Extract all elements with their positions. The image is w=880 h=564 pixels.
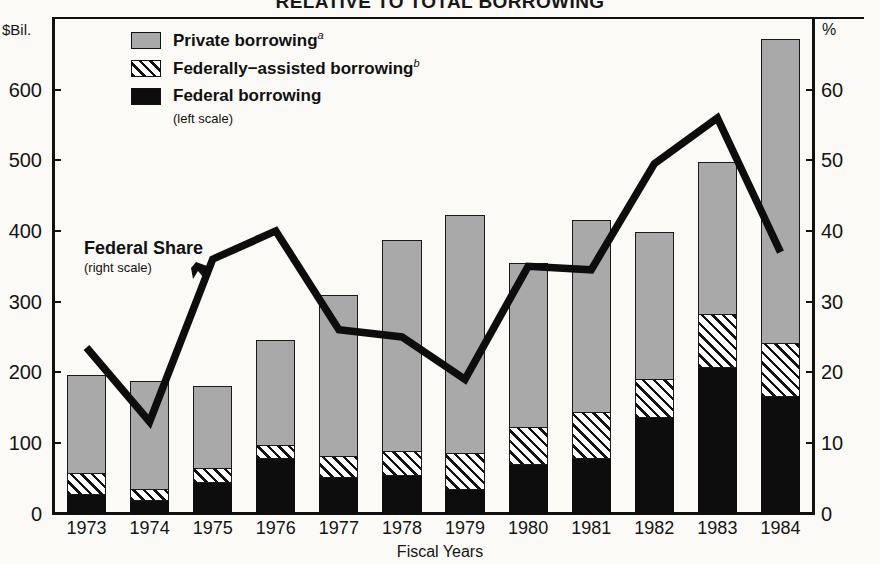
bar-segment-federally-assisted-1983 bbox=[698, 314, 737, 367]
left-tick-label-500: 500 bbox=[0, 150, 42, 170]
annotation-scale-note: (right scale) bbox=[84, 260, 203, 275]
x-axis-label-1984: 1984 bbox=[748, 519, 812, 537]
bar-segment-federally-assisted-1975 bbox=[193, 468, 232, 482]
bar-segment-private-1981 bbox=[572, 220, 611, 412]
legend-label-private: Private borrowinga bbox=[173, 29, 324, 51]
right-tick-20 bbox=[806, 371, 815, 373]
bar-segment-federal-1980 bbox=[509, 464, 548, 514]
x-axis-label-1973: 1973 bbox=[55, 519, 119, 537]
right-tick-label-60: 60 bbox=[821, 80, 880, 100]
legend-label-federal: Federal borrowing bbox=[173, 86, 321, 106]
legend-swatch-federal-icon bbox=[131, 88, 161, 105]
x-axis-label-1980: 1980 bbox=[496, 519, 560, 537]
bar-segment-federal-1974 bbox=[130, 500, 169, 514]
annotation-label: Federal Share bbox=[84, 238, 203, 259]
x-axis-label-1977: 1977 bbox=[307, 519, 371, 537]
right-tick-40 bbox=[806, 230, 815, 232]
right-tick-50 bbox=[806, 159, 815, 161]
x-axis-label-1978: 1978 bbox=[370, 519, 434, 537]
right-tick-10 bbox=[806, 442, 815, 444]
left-axis-unit: $Bil. bbox=[2, 21, 31, 38]
left-tick-label-300: 300 bbox=[0, 292, 42, 312]
legend-swatch-federally-assisted-icon bbox=[131, 60, 161, 77]
bar-segment-federal-1975 bbox=[193, 482, 232, 515]
left-tick-label-400: 400 bbox=[0, 221, 42, 241]
x-axis-label-1981: 1981 bbox=[559, 519, 623, 537]
left-tick-400 bbox=[52, 230, 61, 232]
bar-segment-private-1982 bbox=[635, 232, 674, 380]
left-tick-200 bbox=[52, 371, 61, 373]
legend-item-private: Private borrowinga bbox=[131, 28, 420, 52]
bar-segment-federal-1979 bbox=[445, 489, 484, 515]
right-tick-label-40: 40 bbox=[821, 221, 880, 241]
bar-segment-federal-1976 bbox=[256, 458, 295, 515]
x-axis-title: Fiscal Years bbox=[0, 543, 880, 561]
bar-segment-private-1974 bbox=[130, 381, 169, 489]
legend-item-federally-assisted: Federally−assisted borrowingb bbox=[131, 56, 420, 80]
right-tick-60 bbox=[806, 89, 815, 91]
right-tick-label-50: 50 bbox=[821, 150, 880, 170]
left-tick-label-100: 100 bbox=[0, 433, 42, 453]
right-tick-label-0: 0 bbox=[821, 504, 880, 524]
federal-share-annotation: Federal Share (right scale) bbox=[84, 238, 203, 275]
x-axis-label-1979: 1979 bbox=[433, 519, 497, 537]
page-title: RELATIVE TO TOTAL BORROWING bbox=[0, 0, 880, 9]
chart-legend: Private borrowinga Federally−assisted bo… bbox=[131, 28, 420, 126]
bar-segment-private-1975 bbox=[193, 386, 232, 469]
bar-segment-federal-1981 bbox=[572, 458, 611, 514]
bar-segment-private-1980 bbox=[509, 263, 548, 428]
legend-scale-note: (left scale) bbox=[173, 111, 420, 126]
bar-segment-federally-assisted-1981 bbox=[572, 412, 611, 460]
left-tick-label-200: 200 bbox=[0, 362, 42, 382]
x-axis-label-1974: 1974 bbox=[118, 519, 182, 537]
bar-segment-federally-assisted-1979 bbox=[445, 453, 484, 490]
right-axis-unit: % bbox=[822, 21, 836, 39]
left-tick-label-600: 600 bbox=[0, 80, 42, 100]
bar-segment-federally-assisted-1976 bbox=[256, 445, 295, 459]
bar-segment-federal-1978 bbox=[382, 475, 421, 515]
bar-segment-private-1973 bbox=[67, 375, 106, 474]
bar-segment-private-1978 bbox=[382, 240, 421, 452]
bar-segment-private-1984 bbox=[761, 39, 800, 344]
left-axis-line bbox=[52, 19, 55, 515]
bar-segment-federally-assisted-1982 bbox=[635, 379, 674, 419]
bar-segment-federal-1977 bbox=[319, 477, 358, 514]
legend-item-federal: Federal borrowing bbox=[131, 84, 420, 108]
right-tick-label-30: 30 bbox=[821, 292, 880, 312]
bar-segment-federally-assisted-1984 bbox=[761, 343, 800, 398]
left-tick-100 bbox=[52, 442, 61, 444]
bar-segment-federal-1982 bbox=[635, 417, 674, 514]
title-divider bbox=[52, 17, 864, 19]
x-axis-label-1975: 1975 bbox=[181, 519, 245, 537]
bar-segment-private-1976 bbox=[256, 340, 295, 446]
left-tick-500 bbox=[52, 159, 61, 161]
right-axis-line bbox=[812, 19, 815, 515]
bar-segment-federally-assisted-1980 bbox=[509, 427, 548, 465]
right-tick-30 bbox=[806, 301, 815, 303]
bar-segment-federal-1973 bbox=[67, 494, 106, 514]
left-tick-label-0: 0 bbox=[0, 504, 42, 524]
bar-segment-federally-assisted-1973 bbox=[67, 473, 106, 495]
left-tick-600 bbox=[52, 89, 61, 91]
bar-segment-private-1983 bbox=[698, 162, 737, 315]
legend-swatch-private-icon bbox=[131, 32, 161, 49]
bar-segment-federally-assisted-1974 bbox=[130, 489, 169, 501]
legend-label-federally-assisted: Federally−assisted borrowingb bbox=[173, 57, 420, 79]
bar-segment-federal-1983 bbox=[698, 367, 737, 515]
x-axis-label-1976: 1976 bbox=[244, 519, 308, 537]
right-tick-label-20: 20 bbox=[821, 362, 880, 382]
bar-segment-federally-assisted-1977 bbox=[319, 456, 358, 479]
bar-segment-federal-1984 bbox=[761, 396, 800, 514]
x-axis-label-1982: 1982 bbox=[622, 519, 686, 537]
bar-segment-private-1977 bbox=[319, 295, 358, 456]
bar-segment-private-1979 bbox=[445, 215, 484, 453]
left-tick-300 bbox=[52, 301, 61, 303]
x-axis-label-1983: 1983 bbox=[685, 519, 749, 537]
right-tick-label-10: 10 bbox=[821, 433, 880, 453]
bar-segment-federally-assisted-1978 bbox=[382, 451, 421, 476]
